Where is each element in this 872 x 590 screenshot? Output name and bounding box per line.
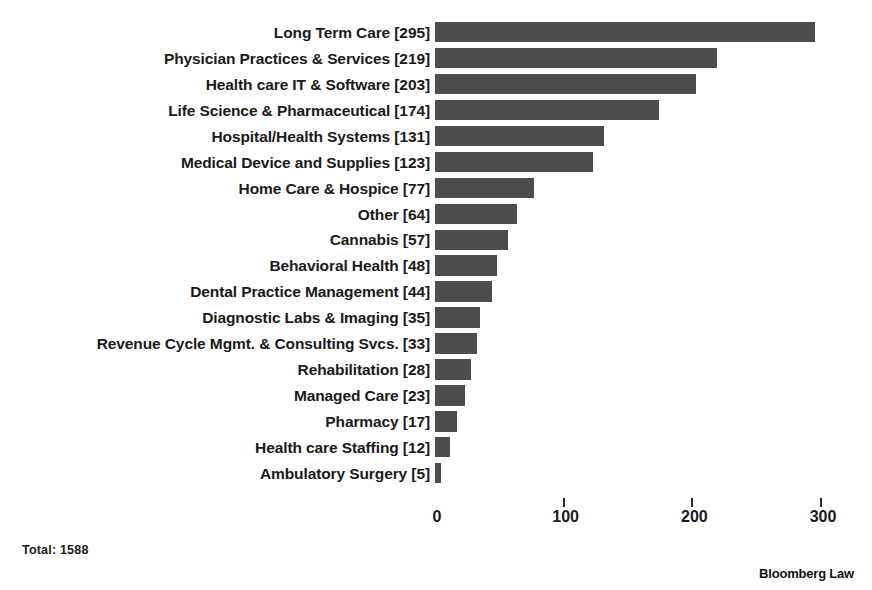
x-axis-tick-label: 100: [552, 509, 579, 525]
bar: [435, 463, 441, 483]
bar-category-label: Rehabilitation [28]: [298, 362, 430, 378]
brand-logo-text: Bloomberg Law: [759, 566, 854, 581]
bar-row: Physician Practices & Services [219]: [0, 46, 872, 72]
bar-track: [435, 383, 872, 409]
bar-track: [435, 305, 872, 331]
bar-category-label: Other [64]: [358, 207, 430, 223]
bar-category-label: Diagnostic Labs & Imaging [35]: [202, 311, 430, 327]
bar-track: [435, 279, 872, 305]
bar-category-label: Medical Device and Supplies [123]: [181, 155, 430, 171]
bar-category-label: Ambulatory Surgery [5]: [260, 466, 430, 482]
bar: [435, 255, 497, 275]
bar-row: Diagnostic Labs & Imaging [35]: [0, 305, 872, 331]
x-axis-tick-label: 200: [681, 509, 708, 525]
bar-row: Hospital/Health Systems [131]: [0, 124, 872, 150]
bar: [435, 230, 508, 250]
bar: [435, 307, 480, 327]
bar-row: Dental Practice Management [44]: [0, 279, 872, 305]
bar-category-label: Behavioral Health [48]: [269, 259, 430, 275]
bar: [435, 178, 534, 198]
bar-category-label: Health care Staffing [12]: [255, 440, 430, 456]
bar-track: [435, 435, 872, 461]
bar-track: [435, 176, 872, 202]
plot-area: Long Term Care [295]Physician Practices …: [0, 20, 872, 498]
bar-category-label: Home Care & Hospice [77]: [239, 181, 430, 197]
total-note: Total: 1588: [22, 543, 89, 557]
bar-row: Home Care & Hospice [77]: [0, 176, 872, 202]
bar-track: [435, 20, 872, 46]
bar: [435, 333, 477, 353]
bar-row: Revenue Cycle Mgmt. & Consulting Svcs. […: [0, 331, 872, 357]
bar: [435, 411, 457, 431]
bar: [435, 437, 450, 457]
bar-row: Pharmacy [17]: [0, 409, 872, 435]
x-axis-tick-mark: [820, 498, 822, 507]
x-axis-tick-mark: [691, 498, 693, 507]
bar-track: [435, 253, 872, 279]
bar-row: Life Science & Pharmaceutical [174]: [0, 98, 872, 124]
bar-category-label: Dental Practice Management [44]: [190, 285, 430, 301]
bar: [435, 281, 492, 301]
bar-track: [435, 124, 872, 150]
x-axis-tick-label: 0: [433, 509, 442, 525]
bar: [435, 385, 465, 405]
bar-track: [435, 98, 872, 124]
bar-track: [435, 202, 872, 228]
bar-track: [435, 409, 872, 435]
bar-track: [435, 331, 872, 357]
x-axis-tick-mark: [563, 498, 565, 507]
x-axis: 0100200300: [435, 498, 872, 532]
bar: [435, 74, 696, 94]
bar-category-label: Pharmacy [17]: [325, 414, 430, 430]
bar-track: [435, 228, 872, 254]
x-axis-tick-label: 300: [810, 509, 837, 525]
bar-track: [435, 72, 872, 98]
bar-row: Long Term Care [295]: [0, 20, 872, 46]
bar: [435, 22, 815, 42]
bar: [435, 204, 517, 224]
bar-row: Cannabis [57]: [0, 228, 872, 254]
bar-row: Ambulatory Surgery [5]: [0, 461, 872, 487]
bar-category-label: Revenue Cycle Mgmt. & Consulting Svcs. […: [97, 336, 430, 352]
bar-track: [435, 461, 872, 487]
bar-category-label: Physician Practices & Services [219]: [164, 51, 430, 67]
bar-row: Other [64]: [0, 202, 872, 228]
bar-category-label: Hospital/Health Systems [131]: [212, 129, 430, 145]
bar-category-label: Managed Care [23]: [294, 388, 430, 404]
bar-chart-figure: Long Term Care [295]Physician Practices …: [0, 0, 872, 590]
bar-track: [435, 357, 872, 383]
bar-row: Behavioral Health [48]: [0, 253, 872, 279]
bar-category-label: Cannabis [57]: [330, 233, 430, 249]
bar: [435, 126, 604, 146]
bar-row: Medical Device and Supplies [123]: [0, 150, 872, 176]
bar: [435, 359, 471, 379]
bar: [435, 48, 717, 68]
bar-category-label: Life Science & Pharmaceutical [174]: [168, 103, 430, 119]
bar-row: Rehabilitation [28]: [0, 357, 872, 383]
bar-row: Health care IT & Software [203]: [0, 72, 872, 98]
bar-category-label: Long Term Care [295]: [274, 25, 430, 41]
bar-row: Managed Care [23]: [0, 383, 872, 409]
bar-track: [435, 150, 872, 176]
bar: [435, 152, 593, 172]
bar-track: [435, 46, 872, 72]
bar-category-label: Health care IT & Software [203]: [206, 77, 430, 93]
bar-row: Health care Staffing [12]: [0, 435, 872, 461]
bar: [435, 100, 659, 120]
